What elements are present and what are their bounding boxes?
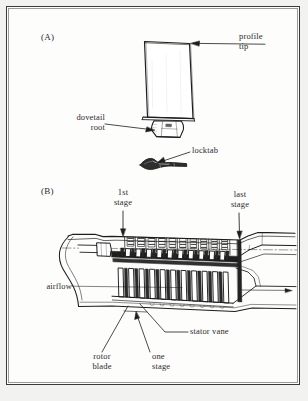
one-stage-leader bbox=[138, 318, 150, 352]
last-stage-label: last stage bbox=[220, 190, 260, 209]
last-stage-blade bbox=[237, 240, 242, 302]
stator-vane-label: stator vane bbox=[190, 327, 229, 337]
casing-lower-outline bbox=[79, 306, 296, 311]
inlet-duct-outer bbox=[59, 237, 78, 307]
front-hub bbox=[97, 243, 111, 257]
last-stage-arrowhead bbox=[237, 231, 242, 239]
first-stage-label: 1st stage bbox=[103, 188, 143, 207]
airflow-label: airflow bbox=[24, 282, 72, 292]
panel-b-tag: (B) bbox=[41, 186, 54, 196]
first-stage-arrowhead bbox=[121, 229, 126, 237]
one-stage-arrowhead bbox=[135, 311, 140, 319]
figure-root: (A) profile tip dovetail root locktab bbox=[0, 0, 308, 401]
inlet-nose bbox=[78, 245, 99, 253]
rear-frame-lower bbox=[233, 286, 296, 303]
panel-b-drawing bbox=[0, 0, 308, 401]
rotor-blade-leader bbox=[102, 306, 128, 352]
one-stage-label: one stage bbox=[152, 352, 170, 371]
one-stage-bracket bbox=[124, 311, 147, 312]
rotor-blade-label: rotor blade bbox=[82, 352, 122, 371]
outlet-flow-arrowhead bbox=[285, 288, 292, 292]
